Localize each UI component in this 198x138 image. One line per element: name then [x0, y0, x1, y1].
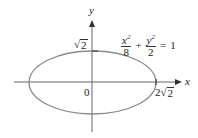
- ellipse-graph-canvas: [0, 0, 198, 138]
- denominator: 8: [123, 47, 129, 58]
- radicand: 2: [80, 39, 88, 51]
- denominator: 2: [148, 47, 154, 58]
- fraction-x: x2 8: [121, 31, 131, 58]
- x-axis-arrow-icon: [175, 79, 182, 85]
- x-intercept-label: 2√2: [155, 87, 174, 99]
- y-axis-arrow-icon: [89, 20, 95, 27]
- exponent: 2: [127, 33, 131, 41]
- y-intercept-label: √2: [74, 39, 88, 51]
- ellipse-equation: x2 8 + y2 2 = 1: [121, 31, 176, 58]
- fraction-y: y2 2: [146, 31, 156, 58]
- y-axis-label: y: [89, 5, 94, 16]
- rhs-value: 1: [170, 39, 176, 51]
- exponent: 2: [152, 33, 156, 41]
- radicand: 2: [167, 87, 175, 99]
- equals-sign: =: [160, 39, 166, 51]
- origin-label: 0: [84, 87, 90, 98]
- plus-sign: +: [135, 39, 141, 51]
- x-axis-label: x: [185, 76, 190, 87]
